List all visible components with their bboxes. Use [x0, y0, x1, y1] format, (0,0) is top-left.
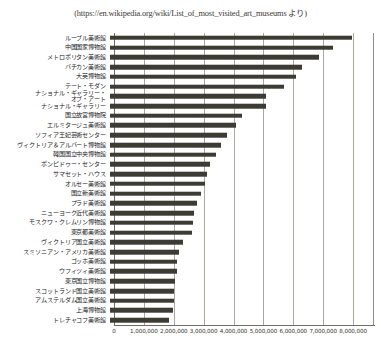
bar-category-label: メトロポリタン美術館 — [0, 54, 110, 61]
bar-row: 国立新美術館 — [0, 189, 381, 199]
bar-row: ルーブル美術館 — [0, 33, 381, 43]
bar — [110, 269, 177, 274]
bar-row: トレチャコフ美術館 — [0, 315, 381, 325]
x-tick-label: 6,000,000 — [280, 328, 308, 334]
x-tick-label: 1,000,000 — [130, 328, 158, 334]
bar-track — [110, 247, 381, 257]
bar-category-label: ナショナル・ギャラリー — [0, 103, 110, 110]
bar-row: ナショナル・ギャラリー — [0, 101, 381, 111]
bar-track — [110, 121, 381, 131]
bar-row: アムステルダム国立美術館 — [0, 296, 381, 306]
bar-category-label: ゴッホ美術館 — [0, 258, 110, 265]
bar — [110, 279, 175, 284]
bar-row: ゴッホ美術館 — [0, 257, 381, 267]
bar-category-label: モスクワ・クレムリン博物館 — [0, 219, 110, 226]
bar-track — [110, 130, 381, 140]
bar-row: バチカン美術館 — [0, 62, 381, 72]
bar-category-label: バチカン美術館 — [0, 64, 110, 71]
bar-row: 東京国立博物館 — [0, 276, 381, 286]
bar-track — [110, 33, 381, 43]
bar-category-label: 上海博物館 — [0, 307, 110, 314]
bar — [110, 123, 236, 128]
bar-track — [110, 296, 381, 306]
bar — [110, 104, 266, 109]
bar — [110, 240, 183, 245]
bar — [110, 133, 227, 138]
bar — [110, 45, 333, 50]
bar-track — [110, 218, 381, 228]
bar-category-label: 東京都美術館 — [0, 229, 110, 236]
bar-row: モスクワ・クレムリン博物館 — [0, 218, 381, 228]
bar-category-label: 国立故宮博物院 — [0, 112, 110, 119]
x-axis-line — [114, 325, 375, 326]
bar — [110, 36, 352, 41]
bar — [110, 55, 319, 60]
bar-category-label: ルーブル美術館 — [0, 35, 110, 42]
bar-track — [110, 267, 381, 277]
bar — [110, 191, 201, 196]
bar-track — [110, 111, 381, 121]
bar-track — [110, 228, 381, 238]
bar-rows: ルーブル美術館中国国家博物館メトロポリタン美術館バチカン美術館大英博物館テート・… — [0, 33, 381, 325]
bar-row: 韓国国立中央博物館 — [0, 150, 381, 160]
bar-row: サマセット・ハウス — [0, 169, 381, 179]
bar-category-label: ウフィツィ美術館 — [0, 268, 110, 275]
bar-track — [110, 315, 381, 325]
bar-track — [110, 179, 381, 189]
bar-row: ニューヨーク近代美術館 — [0, 208, 381, 218]
bar-row: スミソニアン・アメリカ美術館 — [0, 247, 381, 257]
bar-row: 中国国家博物館 — [0, 43, 381, 53]
bar-category-label: 国立新美術館 — [0, 190, 110, 197]
bar-category-label: ポンピドゥー・センター — [0, 161, 110, 168]
bar-category-label: ソフィア王妃芸術センター — [0, 132, 110, 139]
bar-category-label: 大英博物館 — [0, 73, 110, 80]
bar — [110, 162, 210, 167]
bar-track — [110, 72, 381, 82]
bar-row: メトロポリタン美術館 — [0, 52, 381, 62]
bar-category-label: トレチャコフ美術館 — [0, 317, 110, 324]
bar-row: プラド美術館 — [0, 198, 381, 208]
bar — [110, 201, 197, 206]
bar — [110, 220, 193, 225]
bar-track — [110, 82, 381, 92]
bar-track — [110, 150, 381, 160]
source-caption: (https://en.wikipedia.org/wiki/List_of_m… — [0, 6, 381, 18]
bar — [110, 318, 169, 323]
bar-row: ソフィア王妃芸術センター — [0, 130, 381, 140]
bar — [110, 182, 205, 187]
bar-row: ポンピドゥー・センター — [0, 160, 381, 170]
bar-category-label: 中国国家博物館 — [0, 44, 110, 51]
bar-row: オルセー美術館 — [0, 179, 381, 189]
bar-row: ウフィツィ美術館 — [0, 267, 381, 277]
bar-category-label: ヴィクトリア国立美術館 — [0, 239, 110, 246]
bar-row: ヴィクトリア国立美術館 — [0, 237, 381, 247]
bar — [110, 152, 216, 157]
bar-row: ナショナル・ギャラリー・ オブ・アート — [0, 91, 381, 101]
bar-track — [110, 276, 381, 286]
bar-category-label: スミソニアン・アメリカ美術館 — [0, 249, 110, 256]
x-tick-label: 2,000,000 — [160, 328, 188, 334]
bar — [110, 172, 207, 177]
bar-row: ヴィクトリア＆アルバート博物館 — [0, 140, 381, 150]
bar — [110, 289, 174, 294]
bar — [110, 308, 173, 313]
bar-category-label: エルミタージュ美術館 — [0, 122, 110, 129]
bar-track — [110, 198, 381, 208]
bar-track — [110, 306, 381, 316]
bar-track — [110, 208, 381, 218]
bar — [110, 74, 296, 79]
bar-row: エルミタージュ美術館 — [0, 121, 381, 131]
bar-track — [110, 62, 381, 72]
bar-row: 大英博物館 — [0, 72, 381, 82]
bar-track — [110, 169, 381, 179]
bar-category-label: オルセー美術館 — [0, 181, 110, 188]
bar — [110, 143, 221, 148]
bar-category-label: 韓国国立中央博物館 — [0, 151, 110, 158]
bar-track — [110, 189, 381, 199]
bar-track — [110, 286, 381, 296]
bar-category-label: ニューヨーク近代美術館 — [0, 210, 110, 217]
x-tick-label: 8,000,000 — [339, 328, 367, 334]
x-tick-label: 5,000,000 — [250, 328, 278, 334]
bar-category-label: スコットランド国立美術館 — [0, 288, 110, 295]
bar-track — [110, 91, 381, 101]
